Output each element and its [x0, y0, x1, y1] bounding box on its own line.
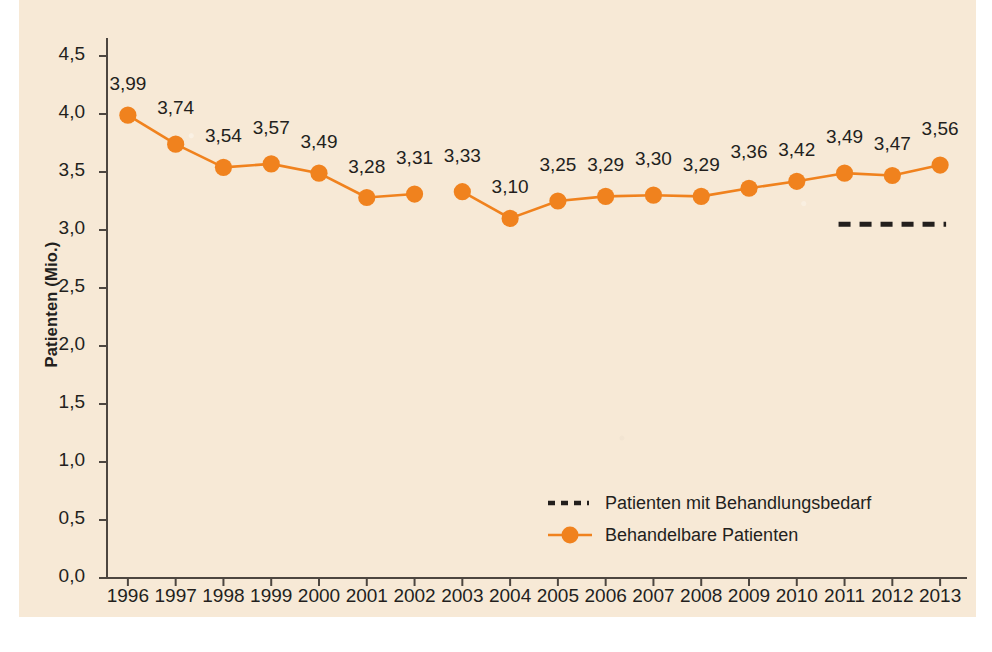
y-axis-tick-label: 1,0: [31, 449, 85, 471]
legend-swatch-line-dot: [548, 527, 592, 544]
y-axis-tick-label: 2,0: [31, 333, 85, 355]
legend-label-behandelbare-patienten: Behandelbare Patienten: [605, 525, 798, 546]
y-axis-tick-marks: [99, 56, 107, 578]
chart-figure: Patienten (Mio.) 0,00,51,01,52,02,53,03,…: [0, 0, 992, 652]
y-axis-tick-label: 0,5: [31, 507, 85, 529]
x-axis-tick-label: 2013: [911, 585, 969, 607]
y-axis-tick-label: 0,0: [31, 565, 85, 587]
data-point-label: 3,10: [480, 176, 540, 198]
chart-panel: Patienten (Mio.) 0,00,51,01,52,02,53,03,…: [19, 0, 976, 617]
y-axis-tick-label: 2,5: [31, 275, 85, 297]
y-axis-tick-label: 3,5: [31, 159, 85, 181]
data-point-label: 3,49: [289, 131, 349, 153]
data-point-label: 3,74: [146, 97, 206, 119]
y-axis-tick-label: 4,5: [31, 43, 85, 65]
legend-label-patienten-mit-behandlungsbedarf: Patienten mit Behandlungsbedarf: [605, 493, 871, 514]
y-axis-tick-label: 4,0: [31, 101, 85, 123]
y-axis-tick-label: 1,5: [31, 391, 85, 413]
data-point-label: 3,33: [432, 145, 492, 167]
plot-area: [19, 0, 976, 617]
y-axis-tick-label: 3,0: [31, 217, 85, 239]
data-point-label: 3,56: [910, 118, 970, 140]
data-point-label: 3,99: [98, 73, 158, 95]
